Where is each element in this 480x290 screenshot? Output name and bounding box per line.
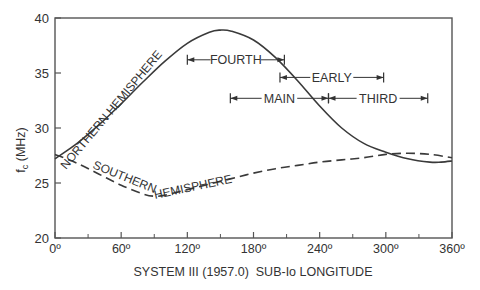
- arrow-right-icon: [321, 96, 328, 101]
- range-label: THIRD: [359, 92, 397, 106]
- y-tick-label: 35: [35, 66, 49, 81]
- range-early: EARLY: [280, 71, 384, 85]
- y-tick-label: 20: [35, 231, 49, 246]
- plot-frame: [55, 18, 452, 238]
- x-tick-label: 300º: [373, 242, 399, 256]
- x-tick-label: 180º: [241, 242, 267, 256]
- curve-labels: NORTHERN HEMISPHERE SOUTHERN HEMISPHERE: [58, 48, 234, 202]
- arrow-right-icon: [277, 57, 284, 62]
- x-tick-label: 60º: [112, 242, 131, 256]
- southern-hemisphere-label-part1: SOUTHERN: [91, 158, 159, 196]
- svg-text:fc (MHz): fc (MHz): [14, 127, 30, 172]
- arrow-left-icon: [280, 75, 287, 80]
- northern-hemisphere-label: NORTHERN HEMISPHERE: [58, 48, 165, 172]
- arrow-left-icon: [187, 57, 194, 62]
- y-axis-label-unit: (MHz): [14, 127, 28, 165]
- x-tick-label: 240º: [307, 242, 333, 256]
- arrow-right-icon: [421, 96, 428, 101]
- southern-hemisphere-label-part2: HEMISPHERE: [153, 172, 234, 202]
- y-axis-label: fc (MHz): [14, 127, 30, 172]
- range-main: MAIN: [230, 92, 328, 106]
- x-tick-label: 360º: [439, 242, 465, 256]
- arrow-right-icon: [377, 75, 384, 80]
- y-tick-label: 25: [35, 176, 49, 191]
- range-third: THIRD: [328, 92, 427, 106]
- y-tick-label: 40: [35, 11, 49, 26]
- x-tick-label: 120º: [175, 242, 201, 256]
- range-label: FOURTH: [210, 53, 262, 67]
- arrow-left-icon: [230, 96, 237, 101]
- y-tick-label: 30: [35, 121, 49, 136]
- chart: 0º60º120º180º240º300º360º2025303540 FOUR…: [0, 0, 480, 290]
- range-annotations: FOURTHEARLYMAINTHIRD: [187, 53, 427, 106]
- range-label: EARLY: [312, 71, 353, 85]
- x-axis-label: SYSTEM III (1957.0) SUB-Io LONGITUDE: [134, 265, 373, 279]
- x-tick-label: 0º: [49, 242, 61, 256]
- plot-svg: 0º60º120º180º240º300º360º2025303540 FOUR…: [0, 0, 480, 290]
- range-fourth: FOURTH: [187, 53, 284, 67]
- range-label: MAIN: [264, 92, 295, 106]
- arrow-left-icon: [328, 96, 335, 101]
